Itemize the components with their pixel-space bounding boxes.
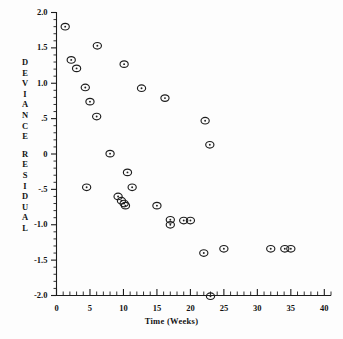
scatter-plot-figure: D E V I A N C E R E S I D U A L -2.0-1.5…	[0, 0, 343, 339]
data-point	[220, 246, 228, 253]
data-point	[287, 246, 295, 253]
data-point	[121, 202, 129, 209]
data-point	[86, 98, 94, 105]
plot-axes	[51, 12, 331, 296]
data-point	[206, 142, 214, 149]
data-point	[93, 42, 101, 49]
data-point	[166, 221, 174, 228]
data-point-center	[183, 220, 185, 222]
data-point	[81, 84, 89, 91]
data-point-center	[164, 97, 166, 99]
data-point	[120, 61, 128, 68]
data-point-center	[70, 59, 72, 61]
data-point-center	[223, 248, 225, 250]
data-point	[67, 57, 75, 64]
data-point-layer	[61, 23, 295, 299]
data-point-center	[209, 144, 211, 146]
data-point-center	[84, 87, 86, 89]
data-point	[201, 117, 209, 124]
data-point	[61, 23, 69, 30]
data-point-center	[141, 87, 143, 89]
data-point	[72, 65, 80, 72]
data-point-center	[270, 248, 272, 250]
data-point-center	[86, 186, 88, 188]
data-point-center	[89, 101, 91, 103]
data-point	[106, 150, 114, 157]
data-point	[153, 202, 161, 209]
data-point-center	[96, 45, 98, 47]
data-point	[128, 184, 136, 191]
data-point-center	[125, 205, 127, 207]
data-point-center	[169, 224, 171, 226]
data-point	[123, 169, 131, 176]
data-point-center	[76, 67, 78, 69]
data-point-center	[127, 171, 129, 173]
data-point	[137, 85, 145, 92]
data-point-center	[284, 248, 286, 250]
data-point-center	[117, 196, 119, 198]
data-point-center	[131, 186, 133, 188]
x-axis-label: Time (Weeks)	[0, 316, 343, 326]
data-point-center	[64, 26, 66, 28]
data-point-center	[290, 248, 292, 250]
data-point	[267, 246, 275, 253]
data-point-center	[189, 220, 191, 222]
data-point-center	[169, 219, 171, 221]
data-point-center	[203, 252, 205, 254]
data-point-center	[156, 205, 158, 207]
data-point-center	[109, 153, 111, 155]
data-point	[93, 113, 101, 120]
data-point-center	[204, 120, 206, 122]
data-point-center	[96, 116, 98, 118]
plot-canvas	[0, 0, 343, 339]
data-point	[161, 95, 169, 102]
data-point	[83, 184, 91, 191]
data-point	[200, 250, 208, 257]
data-point-center	[123, 63, 125, 65]
data-point-center	[210, 295, 212, 297]
